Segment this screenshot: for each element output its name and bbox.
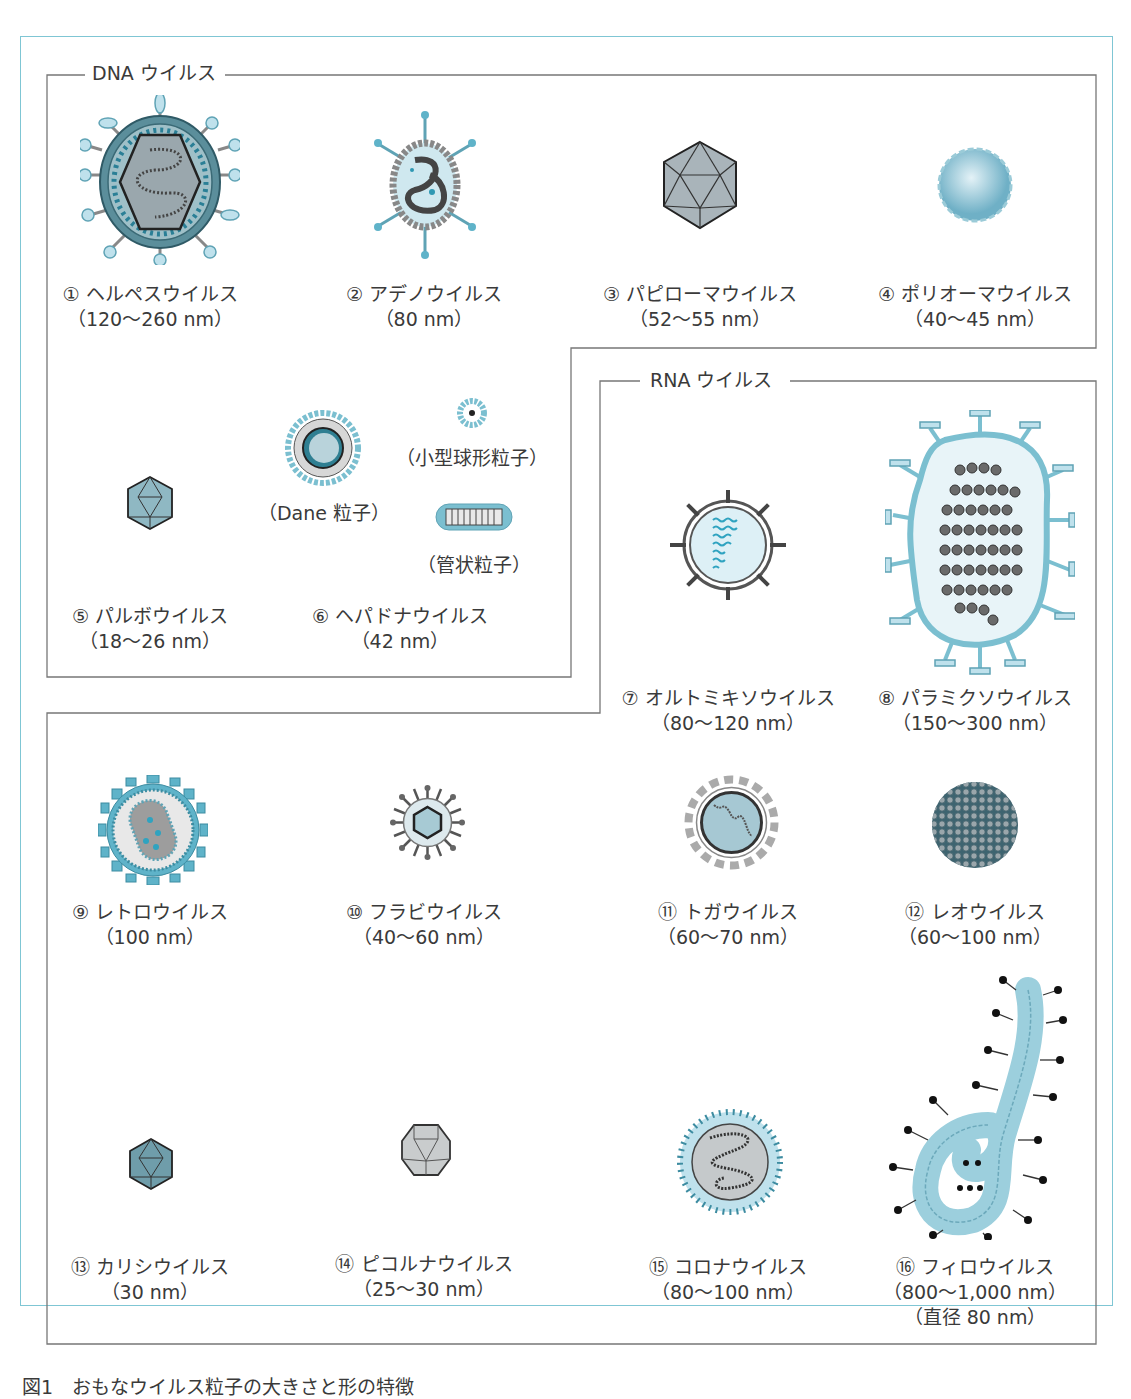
tubular-particle-illustration <box>432 500 516 534</box>
virus-label-corona: ⑮ コロナウイルス（80〜100 nm） <box>649 1255 807 1305</box>
virus-label-reo: ⑫ レオウイルス（60〜100 nm） <box>898 900 1052 950</box>
adenovirus-illustration <box>370 110 480 260</box>
rna-section-title: RNA ウイルス <box>644 369 778 391</box>
virus-label-hepadna: ⑥ ヘパドナウイルス（42 nm） <box>312 604 488 654</box>
virus-label-retro: ⑨ レトロウイルス（100 nm） <box>72 900 228 950</box>
virus-label-picorna: ⑭ ピコルナウイルス（25〜30 nm） <box>335 1252 512 1302</box>
flavivirus-illustration <box>390 785 465 860</box>
dane-particle-illustration <box>283 408 363 488</box>
virus-label-herpes: ① ヘルペスウイルス（120〜260 nm） <box>62 282 237 332</box>
figure-caption: 図1 おもなウイルス粒子の大きさと形の特徴 <box>22 1372 414 1399</box>
small-spherical-particle-label: （小型球形粒子） <box>396 443 548 470</box>
papillomavirus-illustration <box>660 140 740 230</box>
reovirus-illustration <box>930 780 1020 870</box>
small-spherical-particle-illustration <box>457 398 487 428</box>
herpesvirus-illustration <box>80 95 240 265</box>
virus-label-adeno: ② アデノウイルス（80 nm） <box>346 282 502 332</box>
virus-label-toga: ⑪ トガウイルス（60〜70 nm） <box>657 900 799 950</box>
virus-label-papilloma: ③ パピローマウイルス（52〜55 nm） <box>603 282 797 332</box>
dane-particle-label: （Dane 粒子） <box>258 498 390 525</box>
calicivirus-illustration <box>127 1137 175 1191</box>
virus-label-flavi: ⑩ フラビウイルス（40〜60 nm） <box>346 900 502 950</box>
virus-label-orthomyxo: ⑦ オルトミキソウイルス（80〜120 nm） <box>621 686 834 736</box>
parvovirus-illustration <box>125 475 175 531</box>
virus-label-filo: ⑯ フィロウイルス（800〜1,000 nm）（直径 80 nm） <box>883 1255 1067 1330</box>
filovirus-illustration <box>888 975 1078 1240</box>
polyomavirus-illustration <box>935 145 1015 225</box>
picornavirus-illustration <box>400 1123 452 1177</box>
tubular-particle-label: （管状粒子） <box>417 550 531 577</box>
togavirus-illustration <box>684 775 779 870</box>
retrovirus-illustration <box>98 775 208 885</box>
virus-label-calici: ⑬ カリシウイルス（30 nm） <box>71 1255 229 1305</box>
virus-label-parvo: ⑤ パルボウイルス（18〜26 nm） <box>72 604 228 654</box>
paramyxovirus-illustration <box>885 410 1075 675</box>
orthomyxovirus-illustration <box>668 490 788 600</box>
virus-label-paramyxo: ⑧ パラミクソウイルス（150〜300 nm） <box>878 686 1072 736</box>
dna-section-title: DNA ウイルス <box>86 62 222 84</box>
virus-label-polyoma: ④ ポリオーマウイルス（40〜45 nm） <box>878 282 1072 332</box>
coronavirus-illustration <box>670 1103 790 1221</box>
